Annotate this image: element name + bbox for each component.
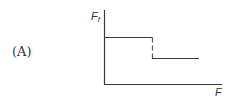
y-axis-label-sub: f: [98, 15, 101, 24]
y-axis-label: Ff: [91, 10, 101, 24]
friction-graph: Ff F: [0, 0, 235, 104]
x-axis-label: F: [215, 86, 223, 98]
